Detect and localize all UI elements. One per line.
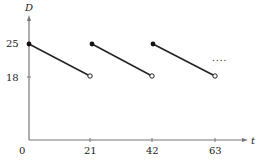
sawtooth-chart: D 25 18 0 21 42 63 t ....	[0, 0, 259, 162]
segment-2	[90, 42, 155, 79]
x-tick-label-63: 63	[209, 145, 222, 156]
open-point-icon	[213, 74, 217, 78]
y-axis-label: D	[24, 2, 33, 13]
x-tick-label-21: 21	[84, 145, 97, 156]
segment-3	[151, 42, 218, 79]
closed-point-icon	[90, 42, 95, 47]
origin-label: 0	[19, 145, 25, 156]
chart-svg: D 25 18 0 21 42 63 t ....	[0, 0, 259, 162]
x-axis-arrow-icon	[242, 138, 248, 142]
open-point-icon	[88, 74, 92, 78]
closed-point-icon	[27, 42, 32, 47]
y-axis-arrow-icon	[27, 15, 31, 21]
continuation-ellipsis: ....	[212, 53, 227, 63]
open-point-icon	[150, 74, 154, 78]
y-tick-label-25: 25	[6, 38, 19, 49]
x-axis-label: t	[251, 135, 256, 146]
segment-1	[27, 42, 93, 79]
closed-point-icon	[151, 42, 156, 47]
y-tick-label-18: 18	[6, 72, 19, 83]
x-tick-label-42: 42	[146, 145, 159, 156]
